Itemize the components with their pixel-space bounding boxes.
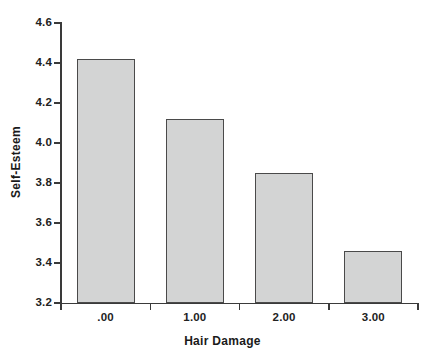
bar <box>344 251 402 303</box>
x-axis-tick-label: 3.00 <box>333 312 413 324</box>
y-axis-tick <box>54 102 61 104</box>
x-axis-tick <box>239 303 241 310</box>
x-axis-tick <box>328 303 330 310</box>
y-axis-tick-label: 4.4 <box>0 57 52 69</box>
x-axis-tick-label: 2.00 <box>244 312 324 324</box>
bar <box>255 173 313 303</box>
y-axis-tick <box>54 22 61 24</box>
y-axis-tick <box>54 262 61 264</box>
y-axis-tick-label: 4.6 <box>0 17 52 29</box>
y-axis-tick-label: 3.6 <box>0 217 52 229</box>
bar <box>166 119 224 303</box>
y-axis-tick-label: 4.2 <box>0 97 52 109</box>
y-axis-title: Self-Esteem <box>9 102 23 222</box>
y-axis-tick <box>54 222 61 224</box>
bar-chart-figure: 4.64.44.24.03.83.63.43.2 .001.002.003.00… <box>0 0 445 359</box>
x-axis-tick <box>150 303 152 310</box>
y-axis-tick-label: 3.2 <box>0 297 52 309</box>
y-axis-tick-label: 3.8 <box>0 177 52 189</box>
x-axis-tick-label: .00 <box>66 312 146 324</box>
x-axis-tick <box>417 303 419 310</box>
y-axis-tick-label: 3.4 <box>0 257 52 269</box>
bar <box>77 59 135 303</box>
y-axis-tick <box>54 182 61 184</box>
x-axis-title: Hair Damage <box>0 334 445 348</box>
y-axis-tick <box>54 62 61 64</box>
y-axis-tick-label: 4.0 <box>0 137 52 149</box>
y-axis-tick <box>54 142 61 144</box>
x-axis-tick-label: 1.00 <box>155 312 235 324</box>
x-axis-tick <box>60 303 62 310</box>
